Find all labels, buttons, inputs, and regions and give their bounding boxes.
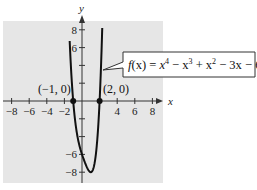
x-tick-label: −2 [59,105,71,117]
y-tick-label: −6 [65,148,77,160]
intercept-point-2 [97,98,103,104]
y-axis-arrow-icon [79,15,85,23]
y-tick-label: 8 [72,24,78,36]
y-tick-label: 6 [72,42,78,54]
x-tick-label: −8 [6,105,18,117]
y-axis-label: y [78,2,84,14]
x-axis-label: x [167,95,173,107]
x-tick-label: −6 [23,105,35,117]
chart: x y −8−6−4−2468 −8−668 (−1, 0) (2, 0) f(… [0,0,257,190]
x-tick-label: 4 [114,105,120,117]
intercept-point-neg1 [70,98,76,104]
function-label: f(x) = x4 − x3 + x2 − 3x − 6 [128,57,257,72]
y-tick-label: −8 [65,166,77,178]
intercept-label-neg1: (−1, 0) [38,82,71,96]
x-tick-label: 6 [132,105,138,117]
x-tick-label: 8 [150,105,156,117]
x-tick-label: −4 [41,105,53,117]
intercept-label-2: (2, 0) [103,82,129,96]
function-callout: f(x) = x4 − x3 + x2 − 3x − 6 [103,52,257,77]
